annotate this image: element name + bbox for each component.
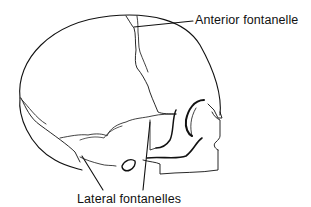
mastoid-fossa: [122, 160, 135, 171]
leader-anterior: [134, 21, 193, 27]
orbit-lower: [191, 108, 196, 136]
leader-lateral-posterior: [82, 156, 103, 190]
occipital-inner: [21, 98, 80, 162]
coronal-suture: [126, 16, 176, 114]
skull-diagram: [0, 0, 311, 207]
anterior-fontanelle-label: Anterior fontanelle: [195, 13, 298, 27]
occipital-outline: [20, 98, 82, 170]
lateral-fontanelles-label: Lateral fontanelles: [77, 192, 181, 206]
skull-outline: [20, 15, 221, 115]
orbit: [186, 100, 204, 136]
leader-lateral-anterior: [143, 122, 150, 190]
coronal-suture-2: [137, 16, 148, 72]
squamous-suture-2: [80, 126, 122, 140]
squamous-suture: [60, 114, 176, 138]
sphenoid-wing-2: [150, 120, 156, 150]
sphenoid-wing: [156, 110, 176, 148]
maxilla-lower: [143, 150, 218, 174]
